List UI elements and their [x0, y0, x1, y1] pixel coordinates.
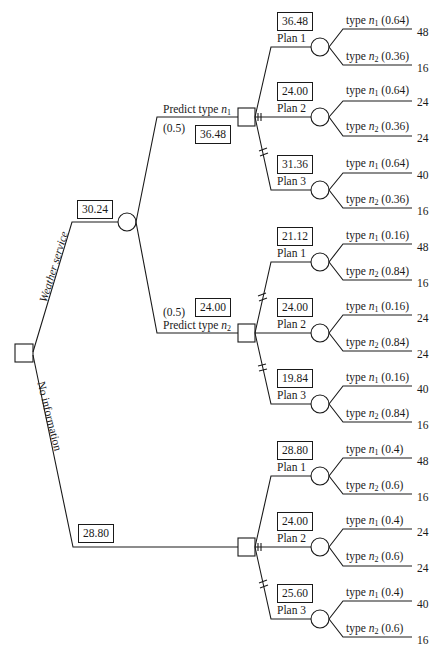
outcome-label: type n1 (0.4)	[346, 586, 403, 602]
outcome-probability: (0.84)	[378, 407, 409, 419]
outcome-label: type n1 (0.16)	[346, 300, 409, 316]
outcome-probability: (0.16)	[378, 300, 409, 312]
plan-label: Plan 3	[277, 175, 306, 188]
plan-label: Plan 1	[277, 461, 306, 474]
outcome-text: type	[346, 407, 369, 419]
outcome-text: type	[346, 550, 369, 562]
outcome-label: type n2 (0.84)	[346, 407, 409, 423]
outcome-text: type	[346, 84, 369, 96]
outcome-label: type n2 (0.36)	[346, 50, 409, 66]
outcome-text: type	[346, 443, 369, 455]
predict-n1-probability: (0.5)	[163, 122, 185, 135]
outcome-label: type n2 (0.6)	[346, 479, 403, 495]
payoff-value: 16	[417, 205, 429, 218]
outcome-text: type	[346, 479, 369, 491]
value-box-no-information: 28.80	[78, 524, 114, 543]
predict-text: Predict type	[163, 319, 221, 331]
outcome-text: type	[346, 300, 369, 312]
payoff-value: 24	[417, 312, 429, 325]
payoff-value: 48	[417, 241, 429, 254]
outcome-label: type n2 (0.6)	[346, 622, 403, 638]
outcome-text: type	[346, 265, 369, 277]
payoff-value: 48	[417, 26, 429, 39]
payoff-value: 16	[417, 419, 429, 432]
outcome-text: type	[346, 120, 369, 132]
predict-n2-probability: (0.5)	[163, 306, 185, 319]
payoff-value: 48	[417, 455, 429, 468]
outcome-label: type n2 (0.6)	[346, 550, 403, 566]
decision-node-n2	[238, 324, 255, 342]
outcome-probability: (0.6)	[378, 479, 403, 491]
payoff-value: 24	[417, 348, 429, 361]
outcome-text: type	[346, 336, 369, 348]
payoff-value: 16	[417, 634, 429, 647]
plan-value-box: 21.12	[277, 227, 313, 246]
plan-value-box: 24.00	[277, 82, 313, 101]
outcome-probability: (0.64)	[378, 84, 409, 96]
plan-label: Plan 2	[277, 532, 306, 545]
outcome-probability: (0.36)	[378, 120, 409, 132]
outcome-probability: (0.6)	[378, 622, 403, 634]
payoff-value: 40	[417, 383, 429, 396]
plan-label: Plan 3	[277, 389, 306, 402]
payoff-value: 24	[417, 562, 429, 575]
predict-n2-label: Predict type n2	[163, 319, 231, 335]
plan-value-box: 31.36	[277, 155, 313, 174]
payoff-value: 24	[417, 526, 429, 539]
value-box-predict-n2: 24.00	[195, 298, 231, 317]
outcome-probability: (0.64)	[378, 14, 409, 26]
payoff-value: 24	[417, 96, 429, 109]
plan-label: Plan 1	[277, 32, 306, 45]
plan-label: Plan 3	[277, 604, 306, 617]
outcome-probability: (0.64)	[378, 157, 409, 169]
outcome-probability: (0.4)	[378, 514, 403, 526]
outcome-text: type	[346, 50, 369, 62]
decision-node-n1	[238, 108, 255, 126]
outcome-label: type n1 (0.16)	[346, 229, 409, 245]
outcome-label: type n2 (0.84)	[346, 336, 409, 352]
outcome-text: type	[346, 157, 369, 169]
outcome-text: type	[346, 586, 369, 598]
plan-value-box: 25.60	[277, 584, 313, 603]
outcome-text: type	[346, 193, 369, 205]
outcome-text: type	[346, 622, 369, 634]
outcome-label: type n1 (0.64)	[346, 84, 409, 100]
decision-node-noinfo	[238, 538, 255, 556]
outcome-probability: (0.36)	[378, 50, 409, 62]
outcome-label: type n1 (0.4)	[346, 443, 403, 459]
plan-value-box: 28.80	[277, 441, 313, 460]
outcome-text: type	[346, 514, 369, 526]
outcome-label: type n2 (0.36)	[346, 120, 409, 136]
outcome-label: type n1 (0.64)	[346, 157, 409, 173]
root-decision-node	[15, 344, 33, 362]
sub: 1	[227, 108, 231, 117]
outcome-probability: (0.36)	[378, 193, 409, 205]
payoff-value: 40	[417, 598, 429, 611]
predict-text: Predict type	[163, 103, 221, 115]
outcome-text: type	[346, 229, 369, 241]
plan-value-box: 24.00	[277, 512, 313, 531]
weather-chance-node	[118, 213, 136, 231]
plan-label: Plan 1	[277, 247, 306, 260]
outcome-probability: (0.84)	[378, 336, 409, 348]
outcome-probability: (0.4)	[378, 586, 403, 598]
outcome-probability: (0.4)	[378, 443, 403, 455]
plan-value-box: 36.48	[277, 12, 313, 31]
payoff-value: 16	[417, 491, 429, 504]
outcome-label: type n1 (0.64)	[346, 14, 409, 30]
payoff-value: 16	[417, 62, 429, 75]
outcome-probability: (0.16)	[378, 229, 409, 241]
payoff-value: 40	[417, 169, 429, 182]
plan-label: Plan 2	[277, 102, 306, 115]
outcome-text: type	[346, 371, 369, 383]
plan-value-box: 19.84	[277, 369, 313, 388]
outcome-label: type n2 (0.84)	[346, 265, 409, 281]
plan-value-box: 24.00	[277, 298, 313, 317]
outcome-label: type n2 (0.36)	[346, 193, 409, 209]
outcome-probability: (0.16)	[378, 371, 409, 383]
payoff-value: 16	[417, 277, 429, 290]
payoff-value: 24	[417, 132, 429, 145]
outcome-label: type n1 (0.4)	[346, 514, 403, 530]
outcome-text: type	[346, 14, 369, 26]
outcome-label: type n1 (0.16)	[346, 371, 409, 387]
